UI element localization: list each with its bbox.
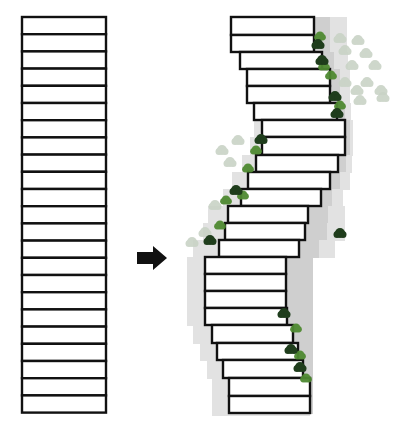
- slab: [247, 86, 330, 103]
- slab: [225, 223, 305, 240]
- slab: [247, 69, 330, 86]
- plant-icon: [186, 237, 199, 247]
- slab: [22, 51, 106, 68]
- plant-icon: [354, 95, 367, 105]
- slab: [22, 292, 106, 309]
- slab: [22, 378, 106, 395]
- slab: [262, 137, 345, 155]
- slab: [22, 69, 106, 86]
- slab: [248, 172, 330, 189]
- slab: [256, 155, 338, 172]
- slab: [22, 344, 106, 361]
- slab: [205, 274, 286, 291]
- plant-icon: [361, 77, 374, 87]
- slab: [229, 378, 310, 396]
- slab: [228, 206, 308, 223]
- slab: [22, 34, 106, 51]
- slab: [22, 241, 106, 258]
- slab: [254, 103, 337, 120]
- slab: [22, 137, 106, 154]
- slab: [22, 327, 106, 344]
- slab: [231, 17, 314, 35]
- plant-icon: [352, 35, 365, 45]
- arrow-icon: [137, 246, 167, 270]
- plant-icon: [232, 135, 245, 145]
- slab: [223, 360, 303, 378]
- slab: [205, 308, 287, 325]
- slab: [219, 240, 299, 257]
- slab: [22, 206, 106, 223]
- slab: [205, 257, 286, 274]
- slab: [22, 361, 106, 378]
- slab: [22, 17, 106, 34]
- plant-icon: [369, 60, 382, 70]
- slab: [231, 35, 314, 52]
- plant-icon: [360, 48, 373, 58]
- plant-icon: [209, 200, 222, 210]
- slab: [240, 52, 322, 69]
- slab: [22, 172, 106, 189]
- slab: [205, 291, 286, 308]
- original-stack: [22, 17, 106, 413]
- slab: [22, 258, 106, 275]
- plant-icon: [216, 145, 229, 155]
- slab: [22, 155, 106, 172]
- plant-icon: [224, 157, 237, 167]
- slab: [22, 223, 106, 240]
- slab: [229, 396, 310, 413]
- slab: [22, 275, 106, 292]
- diagram-canvas: [0, 0, 395, 438]
- slab: [22, 395, 106, 412]
- slab: [22, 189, 106, 206]
- slab: [22, 120, 106, 137]
- slab: [262, 120, 345, 137]
- slab: [22, 103, 106, 120]
- slab: [241, 189, 321, 206]
- plant-icon: [351, 85, 364, 95]
- slab: [212, 325, 293, 343]
- slab: [22, 86, 106, 103]
- slab: [22, 309, 106, 326]
